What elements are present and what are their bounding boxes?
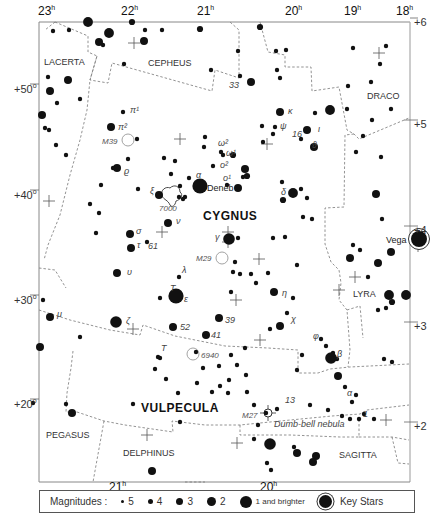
star bbox=[202, 145, 206, 149]
star bbox=[164, 219, 172, 227]
star-cluster-icon bbox=[122, 134, 134, 146]
ra-label: 23h bbox=[38, 4, 55, 18]
star bbox=[346, 254, 354, 262]
star bbox=[264, 438, 276, 450]
star bbox=[136, 187, 140, 191]
star-mag3-icon bbox=[176, 498, 183, 505]
stars bbox=[31, 17, 411, 475]
star bbox=[319, 337, 323, 341]
star bbox=[47, 128, 51, 132]
star-mag4-icon bbox=[148, 499, 153, 504]
star bbox=[389, 299, 395, 305]
star bbox=[203, 135, 207, 139]
star bbox=[324, 344, 328, 348]
star bbox=[285, 311, 289, 315]
star bbox=[378, 62, 382, 66]
star bbox=[245, 390, 249, 394]
dec-label: +6 bbox=[414, 16, 427, 28]
star bbox=[384, 44, 388, 48]
star bbox=[309, 458, 317, 466]
star bbox=[187, 176, 191, 180]
star bbox=[110, 316, 122, 328]
legend-item-label: Key Stars bbox=[340, 496, 383, 507]
star bbox=[111, 166, 115, 170]
star bbox=[354, 393, 358, 397]
star bbox=[308, 403, 312, 407]
star bbox=[325, 105, 335, 115]
star bbox=[295, 368, 299, 372]
star bbox=[345, 107, 349, 111]
star bbox=[122, 62, 126, 66]
star bbox=[223, 233, 235, 245]
star bbox=[241, 165, 249, 173]
star bbox=[275, 68, 279, 72]
star bbox=[238, 74, 242, 78]
star bbox=[369, 80, 373, 84]
star bbox=[78, 97, 82, 101]
star bbox=[177, 275, 181, 279]
star bbox=[46, 313, 54, 321]
constellation-name: PEGASUS bbox=[46, 430, 90, 440]
star bbox=[113, 269, 121, 277]
star bbox=[354, 150, 358, 154]
star-designation: ω² bbox=[218, 138, 229, 148]
constellation-name: SAGITTA bbox=[339, 450, 377, 460]
star bbox=[46, 75, 50, 79]
star bbox=[299, 187, 303, 191]
legend-item-mag3: 3 bbox=[176, 496, 193, 507]
legend-item-mag5: 5 bbox=[121, 496, 134, 507]
star-designation: α bbox=[347, 388, 353, 398]
deep-sky-label: 6940 bbox=[201, 351, 219, 360]
constellation-name: DELPHINUS bbox=[123, 448, 175, 458]
star bbox=[241, 175, 245, 179]
star-designation: π¹ bbox=[130, 105, 139, 115]
star bbox=[256, 423, 260, 427]
star bbox=[104, 28, 114, 38]
star bbox=[252, 437, 256, 441]
star-designation: 1 bbox=[363, 409, 368, 419]
star bbox=[194, 350, 198, 354]
star bbox=[169, 323, 177, 331]
star bbox=[38, 111, 46, 119]
annotations: Dumb-bell nebula bbox=[274, 419, 345, 429]
star bbox=[64, 76, 72, 84]
dec-label: +3 bbox=[414, 320, 427, 332]
star bbox=[46, 87, 54, 95]
star bbox=[284, 48, 288, 52]
star bbox=[192, 178, 207, 193]
dec-label: +50o bbox=[14, 82, 37, 95]
star bbox=[68, 409, 76, 417]
star bbox=[382, 357, 386, 361]
star bbox=[288, 188, 298, 198]
star-designation: σ bbox=[136, 226, 142, 236]
star bbox=[276, 322, 284, 330]
star bbox=[293, 449, 301, 457]
star-designation: ο¹ bbox=[223, 173, 231, 183]
star bbox=[358, 248, 362, 252]
star-designation: β bbox=[336, 349, 342, 359]
star bbox=[54, 143, 58, 147]
star-designation: μ bbox=[56, 309, 62, 319]
star bbox=[155, 191, 163, 199]
star bbox=[211, 164, 215, 168]
star-designation: 41 bbox=[211, 330, 221, 340]
star bbox=[226, 391, 230, 395]
star bbox=[164, 377, 168, 381]
ra-label: 18h bbox=[396, 4, 413, 18]
deep-sky-label: M39 bbox=[102, 137, 118, 146]
star-mag1-icon bbox=[240, 496, 252, 508]
ra-label: 19h bbox=[344, 4, 361, 18]
star-designation: φ bbox=[313, 331, 319, 341]
deep-sky-label: M27 bbox=[242, 411, 258, 420]
dec-label: +4 bbox=[414, 224, 427, 236]
star bbox=[374, 259, 382, 267]
star-designation: 16 bbox=[292, 129, 302, 139]
star-designation: χ bbox=[290, 314, 297, 324]
star-cluster-icon bbox=[216, 252, 228, 264]
star bbox=[55, 101, 59, 105]
star bbox=[217, 364, 221, 368]
dec-label: +5 bbox=[414, 118, 427, 130]
star bbox=[158, 296, 162, 300]
star bbox=[227, 378, 231, 382]
star bbox=[169, 172, 173, 176]
